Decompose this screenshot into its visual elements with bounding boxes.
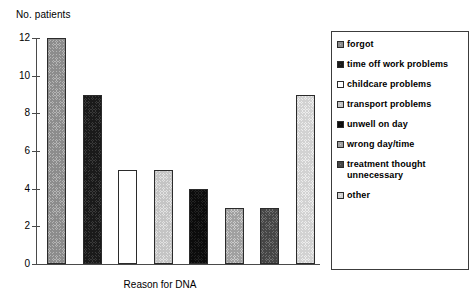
legend-swatch-icon — [337, 161, 344, 168]
y-tick-label: 6 — [24, 145, 30, 156]
chart-container: No. patients 121086420 Reason for DNA fo… — [0, 0, 476, 304]
legend-item[interactable]: unwell on day — [337, 119, 464, 130]
legend-swatch-icon — [337, 41, 344, 48]
y-tick-label: 10 — [19, 70, 30, 81]
bar — [225, 208, 244, 265]
legend-items: forgottime off work problemschildcare pr… — [337, 39, 464, 201]
legend-item-label: unwell on day — [347, 119, 408, 130]
legend-swatch-icon — [337, 61, 344, 68]
legend-item-label: transport problems — [347, 99, 431, 110]
y-tick-mark — [32, 226, 40, 227]
y-tick-label: 8 — [24, 107, 30, 118]
y-tick-label: 4 — [24, 183, 30, 194]
legend-swatch-icon — [337, 121, 344, 128]
y-tick-label: 2 — [24, 220, 30, 231]
bar — [83, 95, 102, 265]
y-tick-mark — [32, 76, 40, 77]
legend-item-label: other — [347, 190, 370, 201]
plot-area: 121086420 — [36, 38, 320, 264]
bar — [296, 95, 315, 265]
bar — [154, 170, 173, 264]
legend-item[interactable]: time off work problems — [337, 59, 464, 70]
bar — [260, 208, 279, 265]
legend-item-label: time off work problems — [347, 59, 448, 70]
bar — [47, 38, 66, 264]
legend-swatch-icon — [337, 141, 344, 148]
legend-swatch-icon — [337, 101, 344, 108]
legend-item[interactable]: treatment thought unnecessary — [337, 159, 464, 181]
legend-swatch-icon — [337, 192, 344, 199]
legend-item-label: treatment thought unnecessary — [347, 159, 426, 181]
legend-item[interactable]: wrong day/time — [337, 139, 464, 150]
y-tick-label: 12 — [19, 32, 30, 43]
legend-item[interactable]: other — [337, 190, 464, 201]
legend-item[interactable]: forgot — [337, 39, 464, 50]
legend-item-label: forgot — [347, 39, 374, 50]
legend-swatch-icon — [337, 81, 344, 88]
y-axis-title: No. patients — [16, 9, 71, 20]
y-tick-mark — [32, 189, 40, 190]
x-axis-title: Reason for DNA — [0, 279, 320, 290]
y-tick-label: 0 — [24, 258, 30, 269]
y-tick-mark — [32, 113, 40, 114]
legend-item-label: wrong day/time — [347, 139, 414, 150]
legend-item[interactable]: childcare problems — [337, 79, 464, 90]
y-tick-mark — [32, 151, 40, 152]
legend-item-label: childcare problems — [347, 79, 431, 90]
x-axis-line — [36, 264, 320, 265]
bar — [189, 189, 208, 264]
y-tick-mark — [32, 264, 40, 265]
legend-item[interactable]: transport problems — [337, 99, 464, 110]
y-tick-mark — [32, 38, 40, 39]
legend-box: forgottime off work problemschildcare pr… — [331, 31, 469, 270]
bar — [118, 170, 137, 264]
